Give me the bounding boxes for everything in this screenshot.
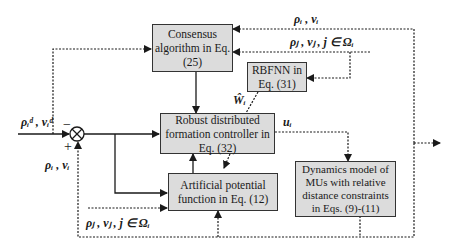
neighbors-bottom-label: ρⱼ , vⱼ , j ∈ Ωᵢ xyxy=(86,217,150,229)
consensus-algorithm-block: Consensus algorithm in Eq. (25) xyxy=(152,24,233,72)
rbfnn-to-controller-line xyxy=(246,92,258,113)
minus-sign: − xyxy=(63,118,71,132)
self-feedback-left-label: ρᵢ , vᵢ xyxy=(45,159,70,171)
dynamics-model-block: Dynamics model of MUs with relative dist… xyxy=(295,161,396,217)
robust-controller-block: Robust distributed formation controller … xyxy=(160,113,275,154)
controller-to-potential-line xyxy=(224,154,230,168)
summing-junction xyxy=(70,127,84,141)
neighbors-to-rbfnn-line xyxy=(307,52,350,78)
plus-sign: + xyxy=(64,140,72,154)
reference-signal-label: ρᵢᵈ , vᵢᵈ xyxy=(21,116,53,128)
self-feedback-top-label: ρᵢ , vᵢ xyxy=(294,13,319,25)
control-input-line xyxy=(275,132,348,161)
neighbors-top-label: ρⱼ , vⱼ , j ∈ Ωᵢ xyxy=(290,36,354,48)
control-input-label: uᵢ xyxy=(283,116,292,128)
rbfnn-block: RBFNN in Eq. (31) xyxy=(247,62,307,92)
nn-weight-label: Ŵᵢ xyxy=(233,94,246,106)
artificial-potential-block: Artificial potential function in Eq. (12… xyxy=(168,173,278,211)
